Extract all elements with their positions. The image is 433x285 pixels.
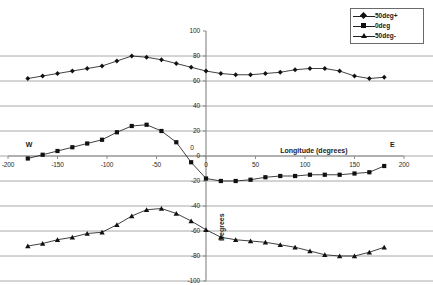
y-tick-label: -100: [172, 277, 200, 284]
gridlines: [0, 56, 433, 281]
annotation-e: E: [390, 141, 395, 148]
x-tick-label: -100: [94, 161, 120, 168]
y-tick-label: -40: [172, 202, 200, 209]
y-tick-label: -60: [172, 227, 200, 234]
legend-marker-triangle-icon: [353, 32, 375, 41]
y-tick-label: 40: [172, 102, 200, 109]
y-tick-label: 60: [172, 77, 200, 84]
x-tick-label: -50: [144, 161, 170, 168]
legend-label: 50deg-: [375, 31, 396, 41]
y-tick-label: 0: [172, 152, 200, 159]
legend-item-2[interactable]: 50deg-: [353, 31, 420, 41]
y-tick-label: -20: [172, 177, 200, 184]
x-tick-label: 150: [342, 161, 368, 168]
x-axis-title: Longitude (degrees): [280, 147, 347, 154]
y-tick-label: 100: [172, 27, 200, 34]
y-tick-label: -80: [172, 252, 200, 259]
legend-marker-square-icon: [353, 22, 375, 31]
annotation-w: W: [26, 141, 33, 148]
x-tick-label: 0: [193, 161, 219, 168]
x-tick-label: 100: [292, 161, 318, 168]
chart-container: 100806040200-20-40-60-80-100-200-150-100…: [0, 0, 433, 285]
legend: 50deg+ 0deg 50deg-: [350, 8, 424, 44]
annotation-0: 0: [190, 144, 194, 151]
y-tick-label: 20: [172, 127, 200, 134]
x-tick-label: -200: [0, 161, 21, 168]
legend-label: 0deg: [375, 21, 390, 31]
x-tick-label: 50: [243, 161, 269, 168]
legend-marker-diamond-icon: [353, 12, 375, 21]
legend-item-1[interactable]: 0deg: [353, 21, 420, 31]
x-tick-label: 200: [391, 161, 417, 168]
y-axis-title: Degrees: [218, 213, 225, 241]
y-tick-label: 80: [172, 52, 200, 59]
legend-item-0[interactable]: 50deg+: [353, 11, 420, 21]
x-tick-label: -150: [45, 161, 71, 168]
legend-label: 50deg+: [375, 11, 398, 21]
